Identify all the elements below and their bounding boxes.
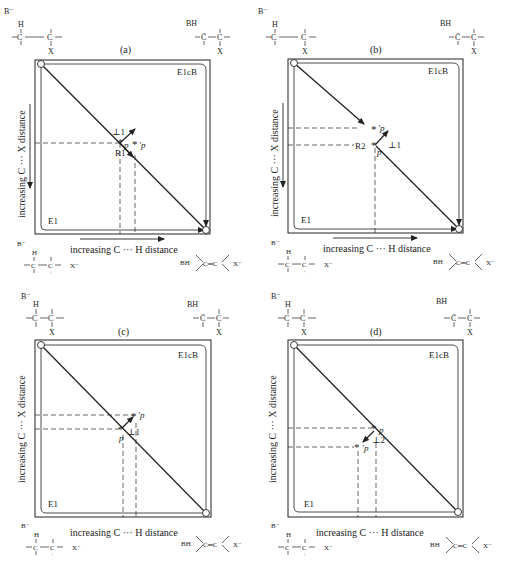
panel-a: B⁻ H C C X (a) BH C̄ C X <box>4 7 242 275</box>
y-axis-label: increasing C ··· X distance <box>16 110 27 218</box>
h-atom: H <box>18 20 24 29</box>
new-ts-marker: * <box>371 123 377 135</box>
svg-text:E1: E1 <box>301 215 311 225</box>
perp-label: ⊥1 <box>388 140 401 150</box>
leaving-group: X⁻ <box>70 262 79 270</box>
panel-label: (b) <box>370 44 382 56</box>
new-ts-label: 'p <box>139 140 146 150</box>
svg-text:H: H <box>286 248 291 256</box>
svg-text:+: + <box>51 552 54 557</box>
svg-text:B⁻: B⁻ <box>21 522 30 530</box>
c-carbanion: C̄ <box>201 33 206 42</box>
svg-text:C: C <box>302 544 307 552</box>
svg-text:C: C <box>301 33 306 42</box>
alkene-structure: BH C═C X⁻ <box>180 255 242 271</box>
carbanion-structure: BH C̄ C X <box>436 297 480 337</box>
reactant-structure: B⁻ H C C X <box>271 292 316 337</box>
svg-text:BH: BH <box>430 541 440 549</box>
svg-text:BH: BH <box>181 540 191 548</box>
svg-text:increasing C ··· H distance: increasing C ··· H distance <box>316 527 424 538</box>
reactant-corner <box>38 61 45 68</box>
base-label: BH <box>180 259 190 267</box>
para-label: R2 <box>355 141 366 151</box>
svg-text:+: + <box>303 269 306 274</box>
alkene-structure: BH C═C X⁻ <box>433 254 495 270</box>
panel-d: B⁻ H C C X (d) BH C̄ C X <box>267 292 492 557</box>
perp-label: ⊥1 <box>127 427 140 437</box>
svg-text:X: X <box>49 328 55 337</box>
svg-text:'p: 'p <box>362 443 369 453</box>
reactant-structure: B⁻ H C C X <box>4 7 62 56</box>
svg-text:E1cB: E1cB <box>428 66 448 76</box>
carbanion-structure: BH C̄ C X <box>187 300 229 337</box>
perp-label: ⊥1 <box>112 127 125 137</box>
svg-text:C: C <box>284 314 289 323</box>
svg-text:C═C: C═C <box>456 259 471 267</box>
svg-text:C: C <box>285 544 290 552</box>
plus-charge: + <box>49 270 52 275</box>
svg-text:B⁻: B⁻ <box>271 239 280 247</box>
svg-text:H: H <box>286 531 291 539</box>
svg-text:BH: BH <box>187 300 198 309</box>
svg-text:increasing C ··· H distance: increasing C ··· H distance <box>323 243 431 254</box>
x-atom: X <box>217 47 223 56</box>
svg-text:X⁻: X⁻ <box>483 542 492 550</box>
svg-text:'p: 'p <box>138 410 145 420</box>
alkene-structure: BH C═C X⁻ <box>430 537 492 553</box>
svg-text:H: H <box>285 300 291 309</box>
svg-text:C: C <box>48 314 53 323</box>
svg-text:B⁻: B⁻ <box>258 7 268 16</box>
transition-state-marker: * <box>371 139 377 151</box>
svg-text:X: X <box>471 47 477 56</box>
svg-text:E1: E1 <box>304 499 314 509</box>
svg-text:X⁻: X⁻ <box>324 544 333 552</box>
c-cation: C <box>48 262 53 270</box>
x-atom: X <box>48 47 54 56</box>
h-atom: H <box>32 249 37 257</box>
svg-text:X: X <box>216 328 222 337</box>
svg-text:C: C <box>50 544 55 552</box>
panel-label: (d) <box>370 326 382 338</box>
svg-text:X: X <box>467 328 473 337</box>
svg-text:H: H <box>34 531 39 539</box>
svg-text:E1cB: E1cB <box>178 350 198 360</box>
e2-diagonal <box>376 146 459 229</box>
c-alpha: C <box>47 33 52 42</box>
svg-text:B⁻: B⁻ <box>271 522 280 530</box>
leaving-group: X⁻ <box>233 260 242 268</box>
x-axis-label: increasing C ··· H distance <box>70 244 178 255</box>
svg-text:C̄: C̄ <box>200 314 205 323</box>
carbanion-structure: BH C̄ C X <box>440 19 484 56</box>
perpendicular-shift-arrow <box>375 131 388 145</box>
e2-diagonal <box>41 345 206 513</box>
svg-text:increasing C ··· X distance: increasing C ··· X distance <box>16 375 27 483</box>
svg-text:E1cB: E1cB <box>429 350 449 360</box>
para-label: R1 <box>115 148 126 158</box>
svg-text:X⁻: X⁻ <box>72 544 81 552</box>
svg-text:'p: 'p <box>378 123 385 133</box>
svg-text:p: p <box>376 147 382 157</box>
svg-text:C̄: C̄ <box>455 33 460 42</box>
svg-text:C═C: C═C <box>453 542 468 550</box>
reactant-structure: B⁻ H C C X <box>258 7 316 56</box>
new-ts-marker: * <box>132 138 138 150</box>
svg-text:X: X <box>301 328 307 337</box>
c-beta: C <box>17 33 22 42</box>
svg-text:X⁻: X⁻ <box>324 261 333 269</box>
svg-text:X⁻: X⁻ <box>233 541 242 549</box>
base-label: B⁻ <box>4 7 14 16</box>
new-ts-marker: * <box>131 410 137 422</box>
svg-text:increasing C ··· H distance: increasing C ··· H distance <box>70 527 178 538</box>
svg-text:C═C: C═C <box>203 541 218 549</box>
panel-label: (c) <box>118 326 129 338</box>
svg-text:BH: BH <box>433 258 443 266</box>
svg-text:H: H <box>33 300 39 309</box>
svg-text:C: C <box>32 314 37 323</box>
svg-text:C: C <box>271 33 276 42</box>
transition-state-marker: * <box>118 137 123 148</box>
svg-text:BH: BH <box>440 19 451 28</box>
base-label: B⁻ <box>17 240 26 248</box>
svg-text:C: C <box>471 33 476 42</box>
svg-text:X: X <box>302 47 308 56</box>
svg-text:increasing C ··· X distance: increasing C ··· X distance <box>269 109 280 217</box>
